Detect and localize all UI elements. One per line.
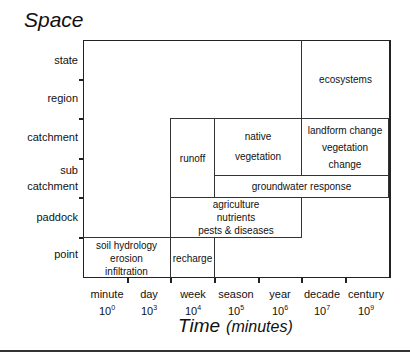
y-label-state: state (0, 54, 78, 67)
box-text: recharge (173, 252, 212, 265)
bottom-divider (0, 350, 410, 352)
x-label-decade: decade (297, 288, 347, 300)
y-axis-title: Space (24, 8, 84, 32)
x-tick (127, 278, 129, 283)
y-label-catchment: catchment (0, 131, 78, 144)
plot-right-border (389, 40, 391, 278)
box-recharge: recharge (170, 237, 215, 278)
x-axis-title: Time(minutes) (178, 315, 293, 337)
y-tick (79, 158, 84, 160)
box-text: agriculture (198, 198, 274, 211)
box-text: nutrients (198, 211, 274, 224)
x-tick (214, 278, 216, 283)
box-text: native (235, 127, 281, 147)
y-label-paddock: paddock (0, 211, 78, 224)
y-label-point: point (0, 248, 78, 261)
y-tick (79, 197, 84, 199)
box-text: landform change (308, 122, 383, 139)
box-runoff: runoff (170, 118, 215, 198)
x-tick (258, 278, 260, 283)
y-label-sub-catchment: catchment (0, 180, 78, 193)
x-exp-decade: 107 (297, 304, 347, 317)
box-text: vegetation (235, 147, 281, 167)
x-exp-day: 103 (124, 304, 174, 317)
box-soil-hydrology: soil hydrology erosion infiltration (83, 237, 171, 278)
y-label-sub: sub (0, 164, 78, 177)
box-native-vegetation: native vegetation (214, 118, 302, 176)
box-text: pests & diseases (198, 224, 274, 237)
x-tick (301, 278, 303, 283)
box-text: change (308, 156, 383, 173)
y-tick (79, 79, 84, 81)
box-landform-change: landform change vegetation change (301, 118, 389, 176)
box-text: groundwater response (252, 180, 352, 193)
x-tick (345, 278, 347, 283)
box-text: erosion (96, 252, 157, 265)
box-groundwater-response: groundwater response (214, 175, 389, 198)
x-tick (170, 278, 172, 283)
box-agriculture: agriculture nutrients pests & diseases (170, 197, 302, 238)
box-text: ecosystems (319, 73, 372, 86)
box-text: vegetation (308, 139, 383, 156)
box-ecosystems: ecosystems (301, 40, 389, 119)
x-label-day: day (124, 288, 174, 300)
x-exp-century: 109 (341, 304, 391, 317)
x-label-century: century (341, 288, 391, 300)
y-tick (79, 118, 84, 120)
box-text: runoff (180, 152, 205, 165)
box-text: infiltration (96, 265, 157, 278)
y-label-region: region (0, 92, 78, 105)
x-label-season: season (211, 288, 261, 300)
box-text: soil hydrology (96, 239, 157, 252)
